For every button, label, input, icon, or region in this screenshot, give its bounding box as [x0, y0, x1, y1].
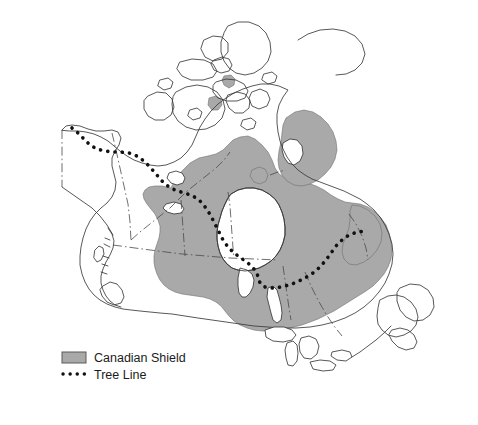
small-island-a	[158, 78, 173, 90]
haida-gwaii	[94, 246, 104, 262]
nova-scotia	[389, 328, 417, 350]
map-figure: Canadian Shield Tree Line	[0, 0, 478, 425]
bc-fjords	[101, 238, 110, 274]
vancouver-island	[100, 282, 124, 305]
axel-heiberg-island	[201, 36, 228, 61]
canadian-shield-region	[143, 75, 392, 331]
great-lakes	[265, 327, 352, 371]
arctic-archipelago	[144, 22, 277, 130]
lake-ontario	[331, 350, 352, 361]
alaska-panhandle-edge	[62, 187, 113, 235]
small-island-d	[262, 72, 277, 84]
ellesmere-island	[221, 22, 271, 75]
small-island-b	[188, 108, 202, 120]
lake-huron	[299, 336, 319, 359]
small-island-c	[241, 118, 256, 130]
newfoundland	[397, 284, 434, 321]
greenland-fragment	[298, 29, 365, 75]
legend-label-tree-line: Tree Line	[94, 368, 146, 382]
st-lawrence-river	[352, 326, 391, 357]
great-bear-lake	[167, 171, 185, 185]
shield-arctic-patch	[222, 75, 235, 88]
lake-erie	[310, 360, 336, 371]
border-yukon-nwt	[112, 133, 131, 240]
prince-of-wales-island	[226, 92, 250, 113]
lake-michigan	[285, 341, 298, 366]
map-legend: Canadian Shield Tree Line	[62, 351, 186, 382]
bc-coast	[101, 228, 121, 307]
legend-label-canadian-shield: Canadian Shield	[94, 351, 186, 365]
banks-island	[144, 92, 174, 120]
melville-island	[177, 59, 217, 80]
lake-superior	[265, 327, 296, 342]
somerset-island	[249, 89, 270, 109]
legend-swatch-canadian-shield	[62, 352, 86, 363]
canada-map-svg: Canadian Shield Tree Line	[0, 0, 478, 425]
